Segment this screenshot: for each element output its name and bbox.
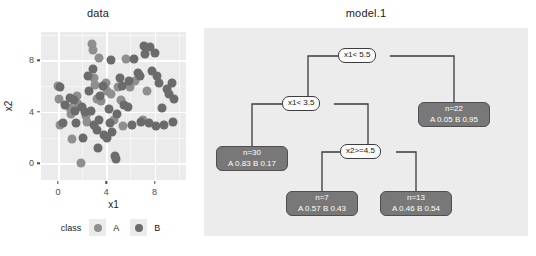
y-tick-label: 0 bbox=[29, 158, 34, 168]
scatter-point-b bbox=[96, 92, 105, 101]
x-tick-mark bbox=[57, 181, 58, 184]
tree-node-split-left-label: x1< 3.5 bbox=[288, 98, 314, 109]
tree-leaf-n22[interactable]: n=22 A 0.05 B 0.95 bbox=[418, 102, 490, 127]
scatter-point-a bbox=[68, 134, 77, 143]
tree-leaf-n30-probs: A 0.83 B 0.17 bbox=[228, 159, 276, 170]
grid-line-major-vertical bbox=[58, 32, 60, 180]
legend: class A B bbox=[41, 219, 186, 236]
scatter-point-a bbox=[76, 159, 85, 168]
legend-key-a[interactable] bbox=[89, 219, 106, 236]
scatter-point-b bbox=[98, 82, 107, 91]
scatter-point-b bbox=[113, 110, 122, 119]
scatter-point-b bbox=[125, 76, 134, 85]
x-tick-mark bbox=[106, 181, 107, 184]
scatter-point-b bbox=[69, 96, 78, 105]
scatter-point-b bbox=[107, 56, 116, 65]
y-tick-mark bbox=[37, 60, 40, 61]
x-axis-title: x1 bbox=[41, 199, 186, 210]
legend-label-a: A bbox=[113, 223, 119, 233]
tree-leaf-n7-count: n=7 bbox=[315, 193, 329, 204]
scatter-point-b bbox=[105, 119, 114, 128]
decision-tree-plot: model.1 x1< 5.5 bbox=[196, 0, 536, 256]
legend-swatch-a bbox=[94, 224, 102, 232]
tree-node-split-left[interactable]: x1< 3.5 bbox=[282, 96, 320, 111]
scatter-point-b bbox=[88, 65, 97, 74]
y-tick-label: 4 bbox=[29, 107, 34, 117]
scatter-point-b bbox=[72, 119, 81, 128]
scatter-point-b bbox=[157, 103, 166, 112]
scatter-point-b bbox=[86, 106, 95, 115]
tree-node-split-x2[interactable]: x2>=4.5 bbox=[340, 144, 381, 159]
tree-panel: x1< 5.5 x1< 3.5 x2>=4.5 n=30 A 0.83 B 0.… bbox=[204, 28, 528, 236]
tree-node-root-split[interactable]: x1< 5.5 bbox=[338, 48, 376, 63]
scatter-point-b bbox=[150, 48, 159, 57]
scatter-point-b bbox=[61, 101, 70, 110]
tree-leaf-n30-count: n=30 bbox=[243, 148, 261, 159]
tree-leaf-n13-probs: A 0.46 B 0.54 bbox=[392, 204, 440, 215]
scatter-point-b bbox=[168, 118, 177, 127]
scatter-point-b bbox=[95, 115, 104, 124]
grid-line-minor-horizontal bbox=[41, 35, 186, 36]
x-tick-label: 8 bbox=[152, 187, 157, 197]
scatter-plot: data x2 x1 048048 class A B bbox=[0, 0, 196, 256]
tree-title: model.1 bbox=[196, 7, 536, 19]
grid-line-minor-horizontal bbox=[41, 138, 186, 139]
grid-line-minor-vertical bbox=[179, 32, 180, 180]
legend-label-b: B bbox=[154, 223, 160, 233]
scatter-point-b bbox=[70, 106, 79, 115]
scatter-point-b bbox=[167, 79, 176, 88]
scatter-point-b bbox=[127, 120, 136, 129]
scatter-point-b bbox=[111, 155, 120, 164]
x-tick-label: 0 bbox=[55, 187, 60, 197]
scatter-point-b bbox=[169, 94, 178, 103]
scatter-title: data bbox=[0, 7, 196, 19]
tree-leaf-n13-count: n=13 bbox=[407, 193, 425, 204]
tree-leaf-n13[interactable]: n=13 A 0.46 B 0.54 bbox=[380, 191, 452, 216]
x-tick-mark bbox=[154, 181, 155, 184]
figure-panels: data x2 x1 048048 class A B model.1 bbox=[0, 0, 536, 256]
legend-key-b[interactable] bbox=[130, 219, 147, 236]
scatter-point-b bbox=[79, 133, 88, 142]
scatter-point-b bbox=[56, 83, 65, 92]
tree-leaf-n30[interactable]: n=30 A 0.83 B 0.17 bbox=[216, 146, 288, 171]
y-tick-label: 8 bbox=[29, 55, 34, 65]
scatter-point-b bbox=[85, 87, 94, 96]
tree-node-split-x2-label: x2>=4.5 bbox=[346, 146, 375, 157]
tree-leaf-n7-probs: A 0.57 B 0.43 bbox=[298, 204, 346, 215]
scatter-point-b bbox=[130, 55, 139, 64]
scatter-point-b bbox=[137, 118, 146, 127]
legend-swatch-b bbox=[135, 224, 143, 232]
scatter-point-b bbox=[124, 102, 133, 111]
scatter-point-a bbox=[107, 89, 116, 98]
y-tick-mark bbox=[37, 163, 40, 164]
scatter-point-b bbox=[103, 133, 112, 142]
scatter-point-b bbox=[58, 119, 67, 128]
scatter-point-a bbox=[143, 87, 152, 96]
scatter-point-a bbox=[95, 53, 104, 62]
tree-leaf-n7[interactable]: n=7 A 0.57 B 0.43 bbox=[286, 191, 358, 216]
y-tick-mark bbox=[37, 111, 40, 112]
tree-leaf-n22-probs: A 0.05 B 0.95 bbox=[430, 115, 478, 126]
tree-node-root-label: x1< 5.5 bbox=[344, 50, 370, 61]
scatter-point-b bbox=[136, 71, 145, 80]
grid-line-minor-horizontal bbox=[41, 189, 186, 190]
legend-title: class bbox=[61, 223, 82, 233]
tree-leaf-n22-count: n=22 bbox=[445, 104, 463, 115]
scatter-point-b bbox=[93, 143, 102, 152]
x-tick-label: 4 bbox=[104, 187, 109, 197]
y-axis-title: x2 bbox=[3, 101, 14, 112]
scatter-panel bbox=[41, 32, 186, 180]
